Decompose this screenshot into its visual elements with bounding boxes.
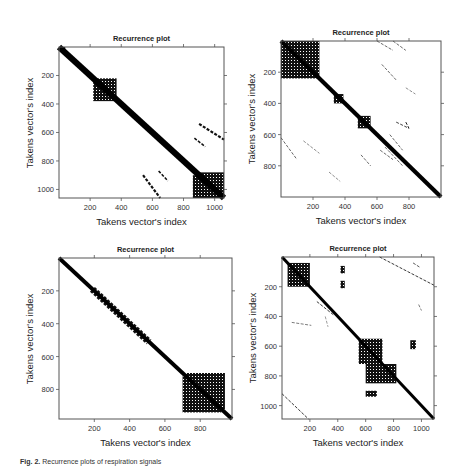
y-tick-label: 200: [263, 68, 276, 77]
x-tick-label: 200: [304, 424, 317, 433]
x-tick-label: 1000: [206, 203, 223, 212]
y-tick-label: 600: [41, 352, 54, 361]
y-tick-label: 400: [41, 319, 54, 328]
x-tick-label: 800: [177, 203, 190, 212]
recurrence-block: [366, 391, 377, 397]
x-tick-label: 400: [332, 424, 345, 433]
figure-caption: Fig. 2. Recurrence plots of respiration …: [20, 458, 161, 465]
x-axis-label: Takens vector's index: [313, 437, 404, 448]
x-tick-label: 600: [159, 424, 172, 433]
y-tick-label: 800: [263, 161, 276, 170]
y-axis-label: Takens vector's index: [246, 74, 257, 165]
x-axis-label: Takens vector's index: [96, 216, 187, 227]
y-tick-label: 200: [41, 286, 54, 295]
plot-title: Recurrence plot: [329, 244, 386, 253]
y-tick-label: 400: [41, 99, 54, 108]
y-tick-label: 800: [41, 156, 54, 165]
y-tick-label: 1000: [37, 185, 54, 194]
x-tick-label: 400: [339, 202, 352, 211]
recurrence-block: [341, 266, 345, 273]
y-tick-label: 600: [264, 342, 277, 351]
y-tick-label: 400: [264, 312, 277, 321]
x-tick-label: 200: [84, 203, 97, 212]
y-axis-label: Takens vector's index: [247, 293, 258, 384]
x-tick-label: 800: [194, 424, 207, 433]
y-tick-label: 1000: [260, 401, 277, 410]
recurrence-plot-area: [59, 47, 224, 198]
y-tick-label: 600: [263, 130, 276, 139]
x-tick-label: 200: [307, 202, 320, 211]
recurrence-plot-area: [59, 258, 232, 419]
x-tick-label: 600: [371, 202, 384, 211]
x-tick-label: 1000: [413, 424, 430, 433]
plot-title: Recurrence plot: [113, 34, 170, 43]
x-tick-label: 800: [403, 202, 416, 211]
caption-label: Fig. 2.: [20, 458, 40, 465]
y-tick-label: 200: [41, 71, 54, 80]
x-axis-label: Takens vector's index: [100, 437, 191, 448]
plot-title: Recurrence plot: [117, 245, 174, 254]
x-tick-label: 800: [387, 424, 400, 433]
y-tick-label: 400: [263, 99, 276, 108]
recurrence-block: [410, 340, 416, 349]
y-axis-label: Takens vector's index: [24, 293, 35, 384]
recurrence-plot-area: [281, 41, 441, 197]
y-axis-label: Takens vector's index: [24, 77, 35, 168]
x-tick-label: 600: [146, 203, 159, 212]
y-tick-label: 800: [41, 385, 54, 394]
recurrence-block: [186, 373, 225, 409]
recurrence-block: [341, 281, 345, 288]
x-tick-label: 400: [115, 203, 128, 212]
y-tick-label: 600: [41, 128, 54, 137]
caption-text: Recurrence plots of respiration signals: [42, 458, 161, 465]
x-tick-label: 600: [359, 424, 372, 433]
recurrence-plot-area: [282, 257, 434, 419]
y-tick-label: 200: [264, 282, 277, 291]
plot-title: Recurrence plot: [332, 28, 389, 37]
y-tick-label: 800: [264, 371, 277, 380]
x-axis-label: Takens vector's index: [316, 215, 407, 226]
x-tick-label: 200: [88, 424, 101, 433]
x-tick-label: 400: [123, 424, 136, 433]
